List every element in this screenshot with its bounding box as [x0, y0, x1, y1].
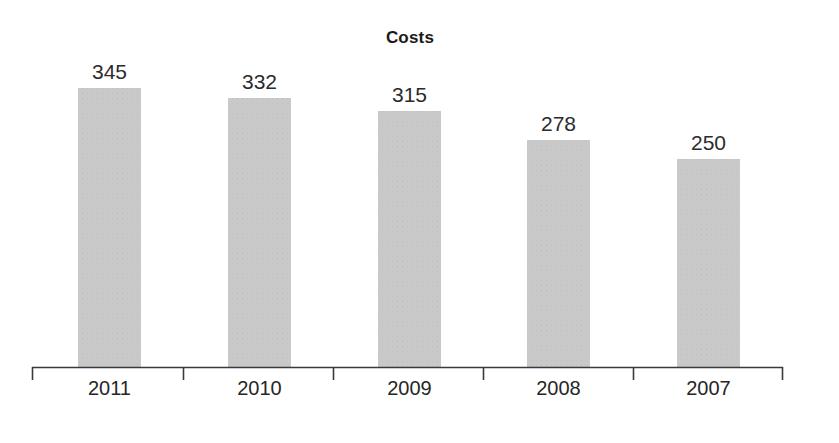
bar-2011 [78, 88, 141, 367]
bar-chart: Costs 345 2011 332 2010 315 2009 278 200… [0, 0, 839, 443]
bar-2007 [677, 159, 740, 367]
bar-value-2009: 315 [378, 83, 441, 107]
bar-value-2008: 278 [527, 112, 590, 136]
category-label-2010: 2010 [218, 377, 301, 400]
bar-2008 [527, 140, 590, 367]
bar-value-2011: 345 [78, 60, 141, 84]
category-label-2009: 2009 [368, 377, 451, 400]
bar-value-2007: 250 [677, 131, 740, 155]
bar-2009 [378, 111, 441, 367]
category-label-2008: 2008 [517, 377, 600, 400]
plot-area: 345 2011 332 2010 315 2009 278 2008 250 … [0, 0, 839, 443]
bar-value-2010: 332 [228, 70, 291, 94]
bar-2010 [228, 98, 291, 367]
category-label-2011: 2011 [68, 377, 151, 400]
category-label-2007: 2007 [667, 377, 750, 400]
